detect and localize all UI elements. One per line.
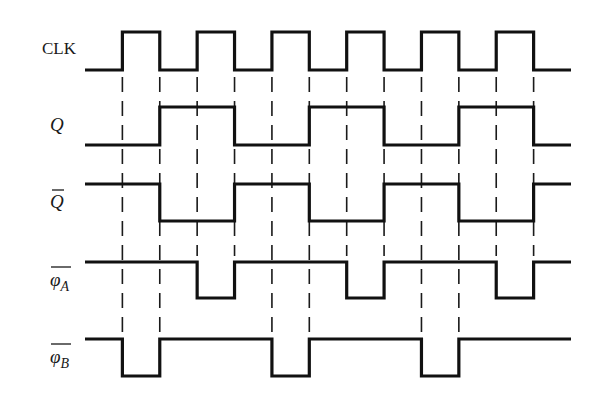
waveform-q-bar xyxy=(85,184,571,221)
label-text-q-bar: Q xyxy=(50,191,64,212)
reference-lines xyxy=(122,77,533,333)
waveform-phi-a-bar xyxy=(85,262,571,298)
label-text-clk: CLK xyxy=(42,39,77,58)
label-q: Q xyxy=(50,114,64,135)
label-phi-b-bar: φB xyxy=(50,344,71,371)
label-text-phi-a-bar: φA xyxy=(50,269,70,294)
label-q-bar: Q xyxy=(50,190,64,212)
waveform-q xyxy=(85,107,571,145)
signal-labels: CLKQQφAφB xyxy=(42,39,77,371)
waveform-clk xyxy=(85,32,571,70)
waveform-phi-b-bar xyxy=(85,339,571,376)
timing-diagram: CLKQQφAφB xyxy=(0,0,604,398)
label-text-q: Q xyxy=(50,114,64,135)
label-clk: CLK xyxy=(42,39,77,58)
label-phi-a-bar: φA xyxy=(50,267,71,294)
label-text-phi-b-bar: φB xyxy=(50,346,70,371)
waveforms xyxy=(85,32,571,376)
